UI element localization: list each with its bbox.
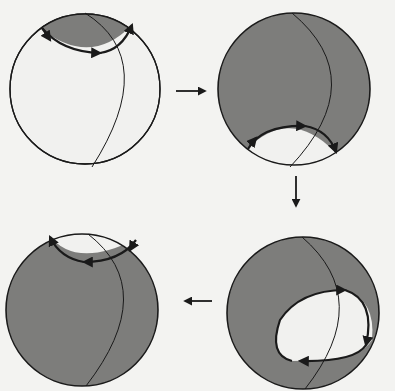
sphere-panel-1 (10, 0, 160, 167)
sphere-panel-2 (218, 13, 370, 200)
diagram-canvas (0, 0, 395, 391)
sphere-panel-4 (6, 220, 158, 386)
sphere-panel-3 (227, 237, 379, 389)
